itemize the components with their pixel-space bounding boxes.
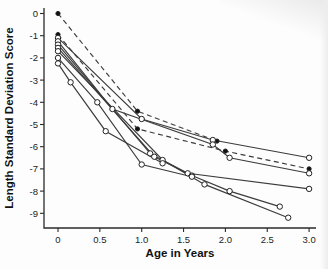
open-circle-marker (139, 116, 144, 121)
x-axis-tick-label: 3.0 (302, 234, 315, 245)
y-axis-title: Length Standard Deviation Score (3, 27, 15, 208)
x-axis-tick-label: 2.5 (261, 234, 274, 245)
x-axis-title: Age in Years (146, 247, 215, 259)
open-circle-marker (55, 55, 60, 60)
y-axis-tick-label: -3 (30, 75, 38, 86)
open-circle-marker (202, 182, 207, 187)
filled-circle-marker (135, 127, 139, 131)
open-circle-marker (103, 129, 108, 134)
open-circle-marker (286, 215, 291, 220)
y-axis-tick-label: -9 (30, 208, 38, 219)
open-circle-marker (189, 174, 194, 179)
axes-frame (44, 8, 316, 228)
open-circle-marker (227, 188, 232, 193)
open-circle-marker (306, 186, 311, 191)
series-line-patient-3 (58, 38, 309, 158)
open-circle-marker (227, 155, 232, 160)
y-axis-tick-label: -5 (30, 119, 38, 130)
open-circle-marker (110, 106, 115, 111)
open-circle-marker (152, 154, 157, 159)
x-axis-tick-label: 2.0 (219, 234, 232, 245)
filled-circle-marker (223, 149, 227, 153)
x-axis-tick-label: 1.0 (135, 234, 148, 245)
y-axis-tick-label: -2 (30, 52, 38, 63)
y-axis-tick-label: -6 (30, 141, 38, 152)
open-circle-marker (306, 155, 311, 160)
open-circle-marker (55, 61, 60, 66)
open-circle-marker (55, 49, 60, 54)
y-axis-tick-label: 0 (33, 8, 38, 19)
open-circle-marker (306, 171, 311, 176)
growth-sds-line-chart: 0-1-2-3-4-5-6-7-8-900.51.01.52.02.53.0Le… (0, 0, 328, 269)
x-axis-tick-label: 0.5 (93, 234, 106, 245)
filled-circle-marker (56, 11, 60, 15)
y-axis-tick-label: -1 (30, 30, 38, 41)
y-axis-tick-label: -7 (30, 163, 38, 174)
x-axis-tick-label: 0 (55, 234, 60, 245)
open-circle-marker (160, 161, 165, 166)
open-circle-marker (277, 204, 282, 209)
series-line-patient-4 (58, 41, 309, 173)
figure-canvas: 0-1-2-3-4-5-6-7-8-900.51.01.52.02.53.0Le… (0, 0, 328, 269)
open-circle-marker (210, 142, 215, 147)
filled-circle-marker (135, 109, 139, 113)
open-circle-marker (95, 100, 100, 105)
y-axis-tick-label: -8 (30, 186, 38, 197)
open-circle-marker (68, 80, 73, 85)
series-line-patient-1 (58, 14, 217, 142)
x-axis-tick-label: 1.5 (177, 234, 190, 245)
series-line-patient-8 (58, 58, 192, 177)
y-axis-tick-label: -4 (30, 97, 38, 108)
open-circle-marker (139, 162, 144, 167)
